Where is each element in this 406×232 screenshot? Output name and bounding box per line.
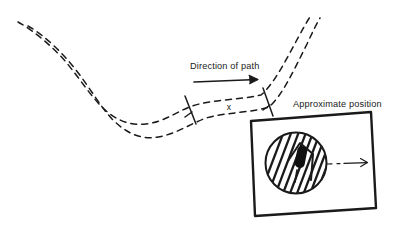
figure-canvas: x Direction of path Approximate position: [0, 0, 406, 232]
position-marker-label: x: [227, 102, 232, 112]
direction-of-path-label: Direction of path: [190, 61, 259, 71]
approximate-position-label: Approximate position: [293, 99, 382, 109]
path-diagram-svg: x Direction of path Approximate position: [0, 0, 406, 232]
inset-panel: [251, 112, 376, 216]
inset-box-border: [251, 112, 376, 216]
